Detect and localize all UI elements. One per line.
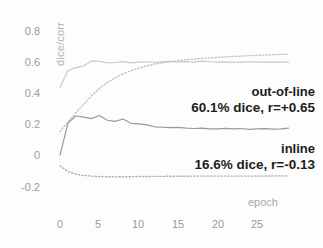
annotation-inline-detail: 16.6% dice, r=-0.13 (120, 157, 315, 172)
annotation-out-of-line-title: out-of-line (120, 84, 315, 99)
plot-area (0, 0, 323, 248)
annotation-out-of-line: out-of-line 60.1% dice, r=+0.65 (120, 84, 315, 115)
annotation-out-of-line-detail: 60.1% dice, r=+0.65 (120, 100, 315, 115)
x-tick-label: 0 (48, 218, 72, 230)
annotation-inline: inline 16.6% dice, r=-0.13 (120, 141, 315, 172)
x-axis-title: epoch (248, 196, 278, 208)
x-tick-label: 25 (245, 218, 269, 230)
chart-container: 0.8 0.6 0.4 0.2 0 -0.2 dice/corr out-of-… (0, 0, 323, 248)
x-tick-label: 15 (166, 218, 190, 230)
x-tick-label: 5 (86, 218, 110, 230)
x-tick-label: 20 (206, 218, 230, 230)
annotation-inline-title: inline (120, 141, 315, 156)
x-tick-label: 10 (126, 218, 150, 230)
